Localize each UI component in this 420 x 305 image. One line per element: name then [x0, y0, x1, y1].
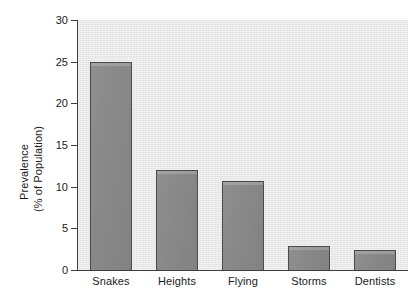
x-axis-tick-label: Dentists: [355, 275, 396, 287]
bar-series: [78, 20, 408, 270]
y-axis-tick-labels: 051015202530: [42, 0, 68, 305]
y-axis-title-line-1: Prevalence: [18, 144, 30, 200]
bar-highlight: [355, 251, 395, 254]
x-axis-tick-label: Snakes: [92, 275, 129, 287]
bar-chart-figure: Prevalence (% of Population) 05101520253…: [0, 0, 420, 305]
x-axis-tick-label: Heights: [158, 275, 196, 287]
bar-highlight: [289, 247, 329, 250]
x-axis-tick-label: Flying: [228, 275, 258, 287]
y-axis-tick-label: 25: [42, 56, 68, 67]
bar-highlight: [223, 182, 263, 185]
y-axis-tick-label: 20: [42, 98, 68, 109]
y-axis-tick-label: 10: [42, 181, 68, 192]
plot-area: [78, 20, 408, 270]
x-axis-tick-labels: SnakesHeightsFlyingStormsDentists: [78, 275, 408, 297]
x-axis-tick-label: Storms: [291, 275, 326, 287]
bar-highlight: [91, 63, 131, 66]
bar-dentists: [354, 250, 396, 270]
y-axis-tick-label: 30: [42, 15, 68, 26]
y-axis-tick-label: 0: [42, 265, 68, 276]
bar-highlight: [157, 171, 197, 174]
bar-flying: [222, 181, 264, 270]
x-axis-spine: [77, 270, 408, 271]
bar-snakes: [90, 62, 132, 270]
y-axis-tick-label: 15: [42, 140, 68, 151]
y-axis-tick-label: 5: [42, 223, 68, 234]
bar-storms: [288, 246, 330, 270]
bar-heights: [156, 170, 198, 270]
y-axis-title: Prevalence (% of Population): [0, 0, 42, 305]
